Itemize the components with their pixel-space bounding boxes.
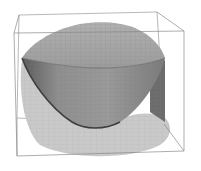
3d-surface-plot — [0, 0, 201, 171]
spherical-dome — [22, 22, 165, 68]
